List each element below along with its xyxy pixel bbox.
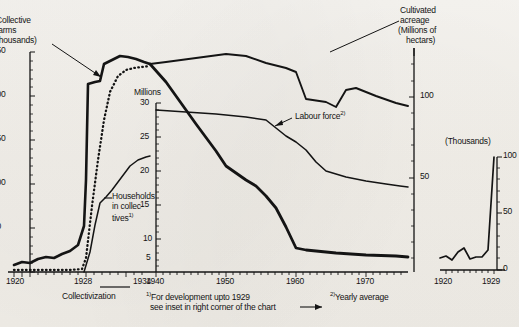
inset-x-tick-1929: 1929: [482, 277, 500, 286]
footnote-one-line1: For development upto 1929: [151, 292, 250, 302]
mid-x-tick-1940: 1940: [146, 277, 164, 286]
mid-y-tick-5: 5: [146, 253, 151, 262]
footnote-arrow-head: [315, 304, 322, 310]
mid-y-tick-15: 15: [140, 200, 149, 209]
mid-y-tick-20: 20: [140, 166, 149, 175]
left-y-tick-250: 250: [0, 46, 6, 55]
footnote-one: 1)For development upto 1929: [146, 291, 250, 302]
series-cultivated-acreage: [150, 54, 408, 107]
left-y-major-ticks: [30, 52, 35, 272]
left-y-axis-title-line2: farms: [0, 26, 16, 35]
inset-panel: [440, 157, 505, 274]
cultivated-acreage-pointer-line: [330, 21, 399, 52]
inset-y-tick-100: 100: [503, 151, 517, 160]
left-x-tick-1920: 1920: [6, 277, 24, 286]
right-y-axis-title-line2: acreage: [400, 16, 429, 25]
left-y-axis-title-line3: (thousands): [0, 36, 37, 45]
inset-y-axis-title: (Thousands): [445, 137, 491, 146]
mid-y-tick-10: 10: [143, 234, 152, 243]
right-y-axis-title-line3: (Millions of: [398, 26, 436, 35]
labour-force-pointer-head: [275, 120, 283, 126]
right-y-tick-100: 100: [420, 91, 434, 100]
inset-y-tick-0: 0: [503, 264, 508, 273]
left-y-tick-150: 150: [0, 134, 6, 143]
mid-y-tick-30: 30: [140, 98, 149, 107]
left-y-tick-100: 100: [0, 178, 6, 187]
labour-force-footnote-marker: 2): [340, 110, 345, 116]
labour-force-label-text: Labour force: [295, 111, 340, 121]
mid-x-tick-1970: 1970: [356, 277, 374, 286]
right-y-axis-title-line4: hectars): [406, 36, 435, 45]
left-y-tick-50: 50: [0, 222, 1, 231]
footnote-one-line2: see inset in right corner of the chart: [150, 303, 276, 312]
inset-x-tick-1920: 1920: [434, 277, 452, 286]
inset-y-tick-50: 50: [503, 207, 512, 216]
footnote-two: 2)Yearly average: [330, 291, 389, 302]
mid-x-tick-1950: 1950: [216, 277, 234, 286]
series-inset-collective-farms: [440, 157, 494, 260]
series-collective-farms-left: [14, 56, 150, 265]
main-panel: [150, 21, 414, 277]
labour-force-label: Labour force2): [295, 110, 345, 121]
mid-y-tick-25: 25: [140, 132, 149, 141]
inset-y-major-ticks: [497, 157, 502, 270]
households-label-footnote-marker: 1): [128, 212, 133, 218]
left-x-tick-1928: 1928: [74, 277, 92, 286]
right-y-major-ticks: [409, 97, 414, 178]
left-y-axis-title-line1: Collective: [0, 16, 31, 25]
collectivization-span-label: Collectivization: [62, 292, 116, 301]
mid-x-tick-1960: 1960: [286, 277, 304, 286]
left-y-tick-200: 200: [0, 90, 6, 99]
footnote-two-text: Yearly average: [335, 292, 389, 302]
mid-y-axis-title: Millions: [134, 88, 161, 97]
right-y-tick-50: 50: [420, 172, 429, 181]
left-panel: [8, 44, 150, 287]
collective-farms-pointer-head: [93, 70, 101, 77]
right-y-axis-title-line1: Cultivated: [400, 6, 436, 15]
collective-farms-pointer-line: [52, 44, 101, 77]
